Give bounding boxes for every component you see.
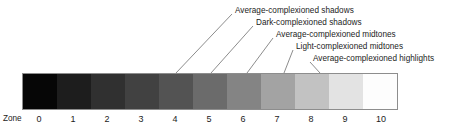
zone-patch-2 [91, 74, 125, 109]
zone-tick-6: 6 [240, 114, 245, 124]
zone-axis-title: Zone [3, 114, 22, 123]
zone-patch-4 [159, 74, 193, 109]
zone-tick-8: 8 [308, 114, 313, 124]
zone-patch-1 [57, 74, 91, 109]
zone-tick-3: 3 [138, 114, 143, 124]
zone-tick-0: 0 [36, 114, 41, 124]
zone-tick-10: 10 [376, 114, 386, 124]
zone-patch-0 [23, 74, 57, 109]
zone-tick-9: 9 [342, 114, 347, 124]
zone-patch-10 [363, 74, 397, 109]
zone-tick-5: 5 [206, 114, 211, 124]
leader-line-average-complexioned-shadows [176, 14, 232, 73]
callout-label-light-complexioned-midtones: Light-complexioned midtones [296, 42, 403, 52]
grayscale-zone-bar [22, 73, 398, 110]
zone-patch-7 [261, 74, 295, 109]
zone-patch-8 [295, 74, 329, 109]
callout-label-dark-complexioned-shadows: Dark-complexioned shadows [256, 18, 362, 28]
leader-line-light-complexioned-midtones [284, 50, 293, 73]
leader-line-dark-complexioned-shadows [211, 26, 253, 73]
zone-patch-6 [227, 74, 261, 109]
zone-tick-4: 4 [172, 114, 177, 124]
callout-label-average-complexioned-highlights: Average-complexioned highlights [313, 54, 434, 64]
leader-line-average-complexioned-midtones [247, 38, 273, 73]
zone-axis: Zone 012345678910 [0, 112, 468, 128]
zone-tick-2: 2 [104, 114, 109, 124]
zone-patch-5 [193, 74, 227, 109]
callout-label-average-complexioned-midtones: Average-complexioned midtones [276, 30, 396, 40]
zone-patch-3 [125, 74, 159, 109]
zone-tick-7: 7 [274, 114, 279, 124]
callout-label-average-complexioned-shadows: Average-complexioned shadows [235, 6, 354, 16]
zone-tick-1: 1 [70, 114, 75, 124]
zone-system-grayscale-figure: Average-complexioned shadowsDark-complex… [0, 0, 468, 132]
zone-patch-9 [329, 74, 363, 109]
